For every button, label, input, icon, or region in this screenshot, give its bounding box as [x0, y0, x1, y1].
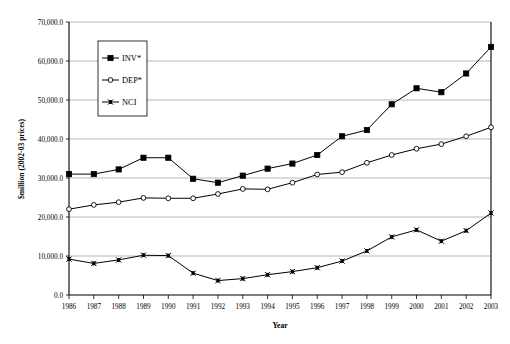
data-point-marker [141, 195, 146, 200]
data-point-marker [414, 86, 419, 91]
data-point-marker [166, 196, 171, 201]
legend-label: NCI [122, 98, 137, 107]
y-tick-label: 50,000.0 [38, 97, 64, 105]
chart-legend: INV*DEP*NCI [98, 41, 147, 116]
data-point-marker [290, 180, 295, 185]
x-tick-label: 1996 [310, 303, 325, 311]
x-tick-label: 1992 [211, 303, 226, 311]
x-tick-label: 1995 [285, 303, 300, 311]
data-point-marker [141, 155, 146, 160]
x-tick-label: 1990 [161, 303, 176, 311]
data-point-marker [265, 187, 270, 192]
data-point-marker [315, 172, 320, 177]
data-point-marker [290, 161, 295, 166]
x-tick-label: 1998 [360, 303, 375, 311]
y-tick-label: 30,000.0 [38, 175, 64, 183]
data-point-marker [315, 152, 320, 157]
y-tick-label: 10,000.0 [38, 253, 64, 261]
y-axis-title: $million (2002-03 prices) [17, 118, 26, 199]
data-point-marker [439, 142, 444, 147]
data-point-marker [464, 134, 469, 139]
data-point-marker [265, 166, 270, 171]
data-point-marker [166, 155, 171, 160]
data-point-marker [116, 200, 121, 205]
data-point-marker [216, 192, 221, 197]
data-point-marker [191, 176, 196, 181]
x-tick-label: 1986 [62, 303, 77, 311]
data-point-marker [67, 207, 72, 212]
y-tick-label: 0.0 [54, 292, 63, 300]
x-tick-label: 1988 [111, 303, 126, 311]
x-axis-title: Year [272, 321, 288, 330]
data-point-marker [389, 102, 394, 107]
x-tick-label: 1994 [260, 303, 275, 311]
data-point-marker [215, 180, 220, 185]
data-point-marker [240, 173, 245, 178]
data-point-marker [439, 90, 444, 95]
data-point-marker [340, 170, 345, 175]
data-point-marker [240, 187, 245, 192]
data-point-marker [91, 172, 96, 177]
x-tick-label: 1989 [136, 303, 151, 311]
data-point-marker [488, 44, 493, 49]
legend-label: INV* [122, 54, 141, 63]
data-point-marker [339, 134, 344, 139]
data-point-marker [389, 153, 394, 158]
data-point-marker [364, 127, 369, 132]
x-tick-label: 1999 [385, 303, 400, 311]
x-tick-label: 1993 [236, 303, 251, 311]
y-tick-label: 70,000.0 [38, 19, 64, 27]
x-tick-label: 2000 [409, 303, 424, 311]
legend-swatch-marker [108, 55, 113, 60]
data-point-marker [191, 196, 196, 201]
x-tick-label: 2001 [434, 303, 449, 311]
x-tick-label: 1991 [186, 303, 201, 311]
line-chart: 0.010,000.020,000.030,000.040,000.050,00… [0, 0, 510, 344]
chart-container: 0.010,000.020,000.030,000.040,000.050,00… [0, 0, 510, 344]
data-point-marker [364, 160, 369, 165]
legend-swatch-marker [108, 78, 113, 83]
data-point-marker [489, 125, 494, 130]
x-tick-label: 2002 [459, 303, 474, 311]
x-tick-label: 1997 [335, 303, 350, 311]
data-point-marker [464, 71, 469, 76]
x-tick-label: 1987 [87, 303, 102, 311]
data-point-marker [116, 167, 121, 172]
y-tick-label: 40,000.0 [38, 136, 64, 144]
y-tick-label: 60,000.0 [38, 58, 64, 66]
data-point-marker [414, 146, 419, 151]
y-tick-label: 20,000.0 [38, 214, 64, 222]
data-point-marker [91, 203, 96, 208]
x-tick-label: 2003 [484, 303, 499, 311]
data-point-marker [66, 172, 71, 177]
legend-label: DEP* [122, 76, 142, 85]
